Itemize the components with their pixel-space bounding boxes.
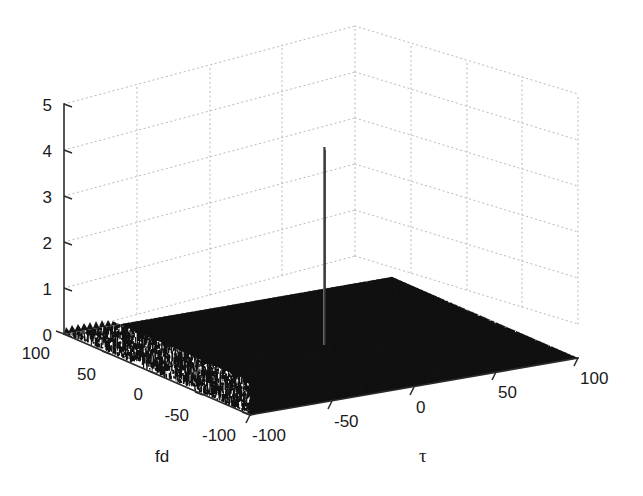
- fd-tick-label-minus50: -50: [164, 406, 189, 425]
- z-tick-label-0: 0: [43, 326, 52, 345]
- z-tick-label-4: 4: [43, 142, 52, 161]
- tau-tick-label-0: 0: [416, 398, 425, 417]
- z-ticks: [64, 104, 72, 337]
- tau-tick-label-minus100: -100: [252, 426, 286, 445]
- fd-tick-label-50: 50: [77, 365, 96, 384]
- z-tick-label-2: 2: [43, 234, 52, 253]
- z-tick-label-3: 3: [43, 188, 52, 207]
- tau-axis-label: τ: [419, 445, 427, 466]
- tau-tick-label-50: 50: [498, 383, 517, 402]
- grid-left-wall-v-lines: [137, 26, 355, 314]
- tau-tick-label-minus50: -50: [334, 412, 359, 431]
- surface-plot-3d: 0 1 2 3 4 5 100 50 0 -50 -100 -100 -50 0…: [0, 0, 643, 496]
- mainlobe-peak-spike: [324, 147, 326, 345]
- tau-tick-label-100: 100: [580, 369, 608, 388]
- grid-right-wall-v-lines: [411, 43, 578, 324]
- figure-canvas: 0 1 2 3 4 5 100 50 0 -50 -100 -100 -50 0…: [0, 0, 643, 496]
- fd-axis-label: fd: [155, 447, 169, 466]
- fd-tick-label-minus100: -100: [202, 426, 236, 445]
- fd-tick-label-0: 0: [134, 385, 143, 404]
- fd-tick-label-100: 100: [22, 344, 50, 363]
- z-tick-label-5: 5: [43, 96, 52, 115]
- z-tick-label-1: 1: [43, 280, 52, 299]
- z-tick-labels: 0 1 2 3 4 5: [43, 96, 52, 345]
